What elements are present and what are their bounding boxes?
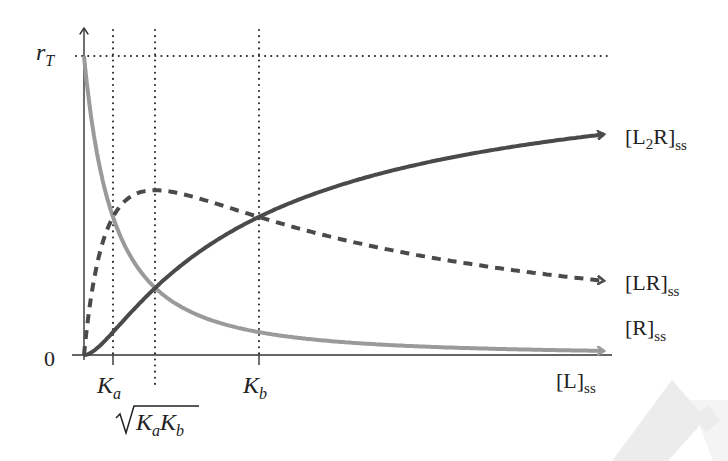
guide-lines: [76, 30, 612, 388]
y-label-rT: rT: [36, 39, 55, 69]
curve-r-ss: [84, 56, 604, 351]
binding-curves-chart: 0 rT Ka Kb KaKb [L]ss [L2R]ss [LR]ss [R]…: [0, 0, 728, 461]
x-label-sqrtKaKb: KaKb: [116, 406, 199, 439]
series-label-r: [R]ss: [625, 315, 666, 344]
x-label-Kb: Kb: [242, 372, 267, 402]
series-label-lr: [LR]ss: [625, 270, 680, 299]
x-label-Ka: Ka: [96, 372, 121, 402]
x-axis-label: [L]ss: [556, 368, 596, 396]
curve-lr-ss: [84, 190, 604, 355]
watermark: [612, 380, 728, 461]
svg-text:KaKb: KaKb: [135, 409, 184, 439]
curve-l2r-ss: [84, 134, 604, 355]
y-label-zero: 0: [44, 346, 55, 371]
series-label-l2r: [L2R]ss: [625, 124, 687, 153]
